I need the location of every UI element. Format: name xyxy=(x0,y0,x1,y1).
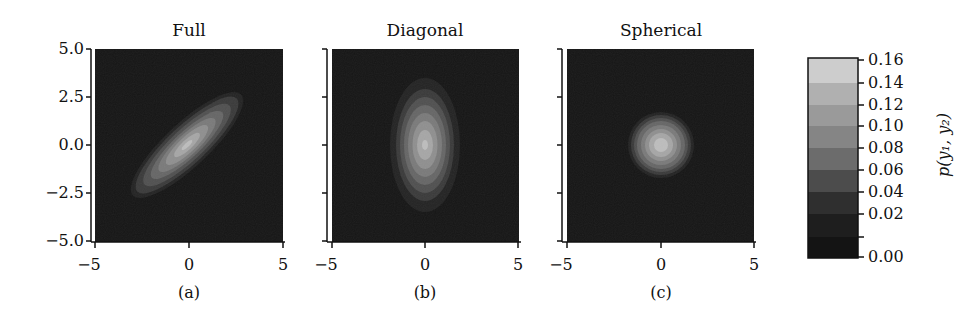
cbar-tick-0.02: 0.02 xyxy=(868,204,904,223)
caption-b: (b) xyxy=(395,283,455,302)
xtick-c-neg5: −5 xyxy=(541,255,581,274)
xtick-a-0: 0 xyxy=(169,255,209,274)
cbar-tick-0.16: 0.16 xyxy=(868,50,904,69)
colorbar-label: p(y₁, y₂) xyxy=(934,85,956,205)
caption-a: (a) xyxy=(159,283,219,302)
xtick-c-0: 0 xyxy=(641,255,681,274)
figure-canvas xyxy=(0,0,972,323)
xtick-b-5: 5 xyxy=(498,255,538,274)
cbar-tick-0.08: 0.08 xyxy=(868,138,904,157)
cbar-tick-0.12: 0.12 xyxy=(868,95,904,114)
caption-c: (c) xyxy=(631,283,691,302)
xtick-b-0: 0 xyxy=(405,255,445,274)
colorbar xyxy=(808,58,864,258)
cbar-tick-0.04: 0.04 xyxy=(868,182,904,201)
xtick-b-neg5: −5 xyxy=(306,255,346,274)
plot-area-spherical xyxy=(557,49,756,248)
plot-area-full xyxy=(86,49,285,248)
cbar-tick-0.14: 0.14 xyxy=(868,73,904,92)
xtick-a-neg5: −5 xyxy=(69,255,109,274)
cbar-tick-0.06: 0.06 xyxy=(868,160,904,179)
cbar-tick-0.10: 0.10 xyxy=(868,116,904,135)
xtick-c-5: 5 xyxy=(734,255,774,274)
plot-area-diagonal xyxy=(322,49,521,248)
cbar-tick-0.00: 0.00 xyxy=(868,247,904,266)
xtick-a-5: 5 xyxy=(263,255,303,274)
